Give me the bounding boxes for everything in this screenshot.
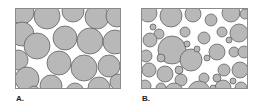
- circle: [217, 27, 227, 37]
- circle: [184, 41, 190, 47]
- circle: [230, 78, 236, 84]
- circle: [24, 33, 50, 59]
- circle: [143, 33, 157, 47]
- circle: [230, 24, 248, 42]
- circle: [222, 8, 240, 22]
- circle: [180, 27, 190, 37]
- circle: [232, 62, 248, 78]
- circle: [209, 44, 225, 60]
- circle: [77, 28, 103, 54]
- circle: [240, 9, 248, 19]
- circle: [194, 46, 200, 52]
- circle: [98, 55, 120, 77]
- circle: [213, 74, 221, 82]
- circle-packing-b: [141, 8, 248, 89]
- panel-b-mixed-packing: [141, 8, 248, 89]
- circle: [175, 66, 183, 74]
- circle: [150, 24, 156, 30]
- circle: [218, 64, 230, 76]
- circle: [198, 32, 210, 44]
- circle: [142, 63, 156, 77]
- circle: [226, 37, 232, 43]
- circle: [185, 8, 201, 22]
- circle: [180, 49, 202, 71]
- circle: [15, 67, 39, 89]
- panel-b-label: B.: [142, 94, 150, 103]
- circle: [157, 66, 173, 82]
- panel-a-uniform-packing: [15, 8, 121, 89]
- circle-packing-a: [15, 8, 121, 89]
- circle: [238, 46, 248, 58]
- circle: [229, 47, 239, 57]
- circle: [157, 54, 165, 62]
- circle: [47, 51, 71, 75]
- circle: [85, 8, 109, 29]
- circle: [53, 26, 77, 50]
- circle: [71, 55, 97, 81]
- panel-a-label: A.: [16, 94, 24, 103]
- circle: [160, 8, 182, 27]
- circle: [204, 55, 210, 61]
- circle: [141, 50, 152, 62]
- circle: [205, 14, 217, 26]
